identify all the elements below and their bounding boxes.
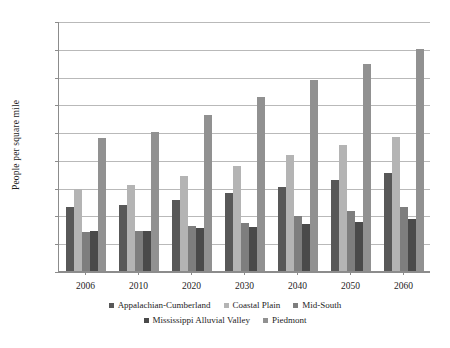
- legend-item-mid-south[interactable]: Mid-South: [293, 300, 341, 310]
- bar-group-2030: 2030: [218, 21, 271, 271]
- bar-group-2010: 2010: [112, 21, 165, 271]
- bar-mid-south-2040: [294, 216, 302, 271]
- x-tick-label-2010: 2010: [112, 281, 165, 291]
- bar-appalachian-cumberland-2030: [225, 193, 233, 271]
- bar-coastal-plain-2006: [74, 189, 82, 271]
- legend-row-1: Appalachian-CumberlandCoastal PlainMid-S…: [0, 300, 450, 310]
- legend-label: Appalachian-Cumberland: [118, 300, 211, 310]
- bar-mid-south-2030: [241, 223, 249, 271]
- bar-mississippi-alluvial-valley-2060: [408, 219, 416, 271]
- x-tick-label-2050: 2050: [324, 281, 377, 291]
- chart-legend: Appalachian-CumberlandCoastal PlainMid-S…: [0, 300, 450, 330]
- bar-mississippi-alluvial-valley-2050: [355, 222, 363, 271]
- legend-label: Mid-South: [302, 300, 341, 310]
- bar-piedmont-2020: [204, 115, 212, 271]
- plot-area: 450400350300250200150100500 200620102020…: [58, 22, 430, 272]
- bar-appalachian-cumberland-2040: [278, 187, 286, 271]
- x-tick-mark-2050: [350, 271, 351, 275]
- x-tick-mark-2020: [191, 271, 192, 275]
- legend-swatch-icon: [224, 303, 229, 308]
- y-axis-title: People per square mile: [11, 45, 21, 245]
- legend-item-piedmont[interactable]: Piedmont: [263, 315, 307, 325]
- legend-item-mississippi-alluvial-valley[interactable]: Mississippi Alluvial Valley: [144, 315, 250, 325]
- bar-appalachian-cumberland-2050: [331, 180, 339, 271]
- bar-mississippi-alluvial-valley-2010: [143, 231, 151, 271]
- bar-appalachian-cumberland-2020: [172, 200, 180, 271]
- legend-label: Piedmont: [272, 315, 307, 325]
- bar-appalachian-cumberland-2006: [66, 207, 74, 271]
- legend-swatch-icon: [293, 303, 298, 308]
- legend-label: Mississippi Alluvial Valley: [153, 315, 250, 325]
- legend-row-2: Mississippi Alluvial ValleyPiedmont: [0, 315, 450, 325]
- legend-swatch-icon: [109, 303, 114, 308]
- bar-groups: 2006201020202030204020502060: [59, 21, 430, 271]
- bar-mid-south-2006: [82, 232, 90, 271]
- bar-mississippi-alluvial-valley-2020: [196, 228, 204, 271]
- x-tick-label-2030: 2030: [218, 281, 271, 291]
- x-tick-mark-2010: [138, 271, 139, 275]
- bar-group-2006: 2006: [59, 21, 112, 271]
- scan-noise-strip: [0, 0, 450, 7]
- bar-group-2040: 2040: [271, 21, 324, 271]
- x-tick-label-2060: 2060: [377, 281, 430, 291]
- bar-mississippi-alluvial-valley-2006: [90, 231, 98, 271]
- bar-appalachian-cumberland-2010: [119, 205, 127, 271]
- bar-mid-south-2010: [135, 231, 143, 271]
- bar-coastal-plain-2010: [127, 185, 135, 271]
- legend-item-coastal-plain[interactable]: Coastal Plain: [224, 300, 281, 310]
- bar-mid-south-2060: [400, 207, 408, 271]
- x-tick-mark-2060: [403, 271, 404, 275]
- bar-coastal-plain-2020: [180, 176, 188, 271]
- bar-piedmont-2010: [151, 132, 159, 271]
- bar-chart: People per square mile 45040035030025020…: [0, 0, 450, 348]
- x-tick-label-2006: 2006: [59, 281, 112, 291]
- bar-group-2060: 2060: [377, 21, 430, 271]
- bar-coastal-plain-2030: [233, 166, 241, 271]
- bar-piedmont-2030: [257, 97, 265, 271]
- x-tick-label-2020: 2020: [165, 281, 218, 291]
- legend-swatch-icon: [144, 318, 149, 323]
- bar-mississippi-alluvial-valley-2040: [302, 224, 310, 271]
- bar-piedmont-2040: [310, 80, 318, 271]
- bar-mid-south-2020: [188, 226, 196, 271]
- bar-group-2020: 2020: [165, 21, 218, 271]
- bar-coastal-plain-2050: [339, 145, 347, 271]
- bar-group-2050: 2050: [324, 21, 377, 271]
- bar-appalachian-cumberland-2060: [384, 173, 392, 271]
- bar-mississippi-alluvial-valley-2030: [249, 227, 257, 271]
- y-tick-mark-0: [55, 272, 59, 273]
- x-tick-mark-2040: [297, 271, 298, 275]
- bar-piedmont-2060: [416, 49, 424, 271]
- legend-label: Coastal Plain: [233, 300, 281, 310]
- bar-piedmont-2006: [98, 138, 106, 271]
- bar-piedmont-2050: [363, 64, 371, 271]
- x-tick-mark-2006: [85, 271, 86, 275]
- bar-coastal-plain-2040: [286, 155, 294, 271]
- x-tick-mark-2030: [244, 271, 245, 275]
- x-tick-label-2040: 2040: [271, 281, 324, 291]
- bar-coastal-plain-2060: [392, 137, 400, 271]
- bar-mid-south-2050: [347, 211, 355, 271]
- legend-swatch-icon: [263, 318, 268, 323]
- legend-item-appalachian-cumberland[interactable]: Appalachian-Cumberland: [109, 300, 211, 310]
